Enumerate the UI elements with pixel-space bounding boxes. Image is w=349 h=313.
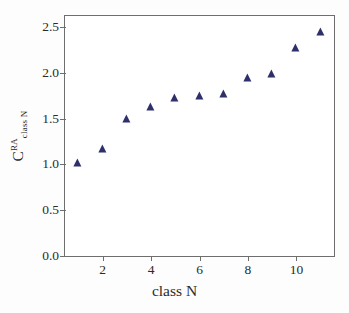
y-axis-title-subscript: class N (19, 111, 29, 139)
y-axis-tick (60, 119, 66, 120)
plot-area: 0.00.51.01.52.02.5246810 (65, 16, 334, 256)
x-axis-tick-label: 8 (245, 263, 252, 277)
data-point-marker (122, 115, 130, 123)
x-axis-tick (296, 256, 297, 262)
x-axis-tick (248, 256, 249, 262)
data-point-marker (243, 74, 251, 82)
x-axis-tick (103, 256, 104, 262)
y-axis-tick-label: 0.0 (42, 249, 59, 263)
y-axis-title-base: C (9, 151, 26, 161)
data-point-marker (74, 159, 82, 167)
data-point-marker (268, 69, 276, 77)
x-axis-tick-label: 2 (99, 263, 106, 277)
y-axis-tick-label: 1.0 (42, 158, 59, 172)
x-axis-tick-label: 6 (196, 263, 203, 277)
x-axis-tick (200, 256, 201, 262)
y-axis-tick-label: 1.5 (42, 112, 59, 126)
x-axis-title: class N (0, 283, 349, 299)
scatter-chart-figure: 0.00.51.01.52.02.5246810 class N CRAclas… (0, 0, 349, 313)
data-point-marker (195, 91, 203, 99)
y-axis-tick (60, 210, 66, 211)
y-axis-tick (60, 73, 66, 74)
data-point-marker (146, 102, 154, 110)
y-axis-tick (60, 256, 66, 257)
x-axis-tick-label: 4 (148, 263, 155, 277)
data-point-marker (316, 28, 324, 36)
plot-frame: 0.00.51.01.52.02.5246810 (64, 15, 335, 257)
x-axis-tick-label: 10 (290, 263, 304, 277)
y-axis-title: CRAclass N (10, 111, 29, 162)
y-axis-tick (60, 27, 66, 28)
data-point-marker (219, 89, 227, 97)
data-point-marker (171, 94, 179, 102)
y-axis-tick-label: 2.5 (42, 20, 59, 34)
data-point-marker (292, 43, 300, 51)
data-point-marker (98, 144, 106, 152)
y-axis-tick-label: 0.5 (42, 203, 59, 217)
y-axis-title-superscript: RA (9, 138, 19, 151)
y-axis-tick (60, 164, 66, 165)
y-axis-tick-label: 2.0 (42, 66, 59, 80)
x-axis-tick (151, 256, 152, 262)
